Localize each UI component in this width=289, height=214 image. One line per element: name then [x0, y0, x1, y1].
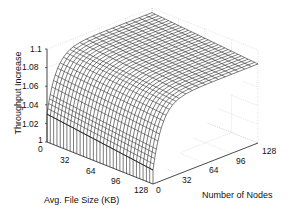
- z-tick-1-06: 1.06: [22, 81, 39, 91]
- z-tick-1-02: 1.02: [22, 119, 39, 129]
- surface-chart: 1 1.02 1.04 1.06 1.08 1.1 0 32 64 96 128…: [0, 0, 289, 214]
- z-tick-1-08: 1.08: [22, 62, 39, 72]
- x-tick-96: 96: [111, 176, 120, 186]
- y-tick-96: 96: [236, 156, 245, 166]
- y-tick-0: 0: [156, 185, 161, 195]
- y-axis-title: Number of Nodes: [202, 190, 273, 200]
- x-tick-0: 0: [38, 144, 43, 154]
- y-tick-64: 64: [209, 165, 218, 175]
- x-tick-32: 32: [60, 155, 69, 165]
- x-tick-128: 128: [134, 185, 148, 195]
- y-tick-32: 32: [182, 175, 191, 185]
- z-tick-1-04: 1.04: [22, 100, 39, 110]
- plot-area: [0, 0, 289, 214]
- z-axis-title: Throughput Increase: [13, 43, 23, 143]
- x-axis-title: Avg. File Size (KB): [44, 195, 119, 205]
- y-tick-128: 128: [262, 146, 276, 156]
- z-tick-1-1: 1.1: [30, 44, 42, 54]
- x-tick-64: 64: [86, 166, 95, 176]
